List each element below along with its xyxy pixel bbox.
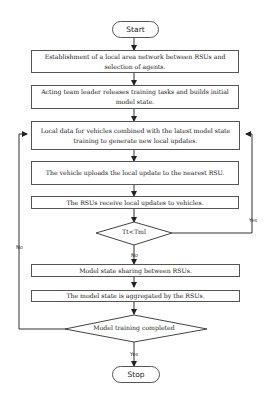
decision-1-text: Tt<Tml [104, 228, 164, 235]
decision-1-no-label: No [131, 252, 138, 258]
stop-terminal: Stop [112, 366, 160, 383]
step-establish-lan: Establishment of a local area network be… [31, 50, 239, 73]
start-terminal: Start [112, 21, 159, 38]
step-upload-update: The vehicle uploads the local update to … [31, 161, 239, 185]
step-model-sharing: Model state sharing between RSUs. [31, 264, 240, 277]
step-model-aggregated: The model state is aggregated by the RSU… [31, 290, 240, 302]
decision-2-no-label: No [16, 244, 23, 250]
decision-2-yes-label: Yes [130, 351, 138, 357]
step-rsus-receive: The RSUs receive local updates to vehicl… [31, 196, 239, 209]
decision-1-yes-label: Yes [249, 217, 257, 223]
step-local-training: Local data for vehicles combined with th… [31, 121, 240, 150]
step-leader-releases-tasks: Acting team leader releases training tas… [31, 85, 239, 109]
decision-2-text: Model training completed [79, 324, 189, 331]
